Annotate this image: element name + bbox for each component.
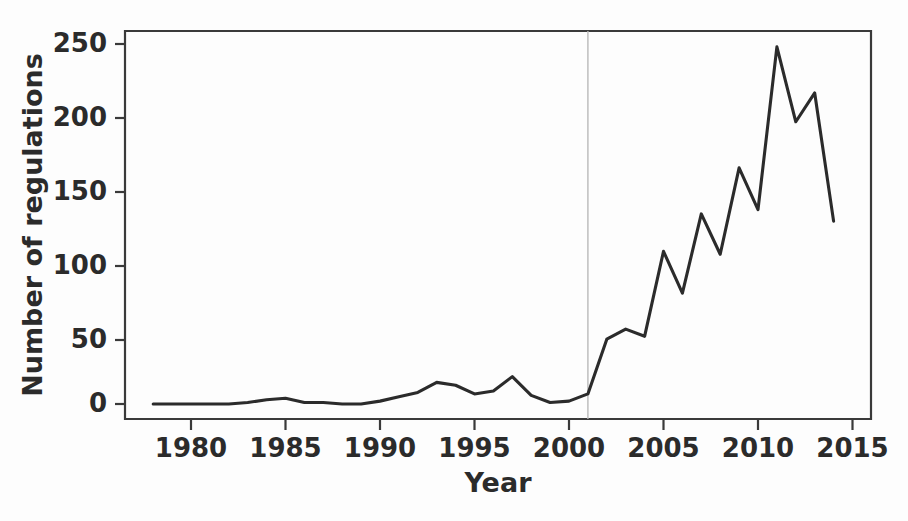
x-tick-label-1985: 1985 [249,433,321,463]
x-tick-label-2000: 2000 [533,433,605,463]
y-tick-label-150: 150 [53,176,107,206]
y-tick-labels: 250 200 150 100 50 0 [53,28,107,418]
plot-frame [125,31,871,419]
y-tick-label-50: 50 [71,324,107,354]
x-tick-label-2010: 2010 [722,433,794,463]
line-chart: 250 200 150 100 50 0 1980 1985 1990 1995… [0,0,908,521]
x-axis-title: Year [464,467,533,498]
y-axis-title: Number of regulations [17,53,48,397]
x-tick-label-2005: 2005 [627,433,699,463]
x-tick-labels: 1980 1985 1990 1995 2000 2005 2010 2015 [155,433,889,463]
y-tick-label-200: 200 [53,102,107,132]
x-tick-marks [191,419,853,430]
y-tick-label-250: 250 [53,28,107,58]
y-tick-marks [115,44,125,404]
y-tick-label-0: 0 [89,388,107,418]
regulations-series-line [153,47,833,404]
x-tick-label-1995: 1995 [438,433,510,463]
chart-figure: 250 200 150 100 50 0 1980 1985 1990 1995… [0,0,908,521]
x-tick-label-1980: 1980 [155,433,227,463]
y-tick-label-100: 100 [53,250,107,280]
x-tick-label-1990: 1990 [344,433,416,463]
x-tick-label-2015: 2015 [816,433,888,463]
